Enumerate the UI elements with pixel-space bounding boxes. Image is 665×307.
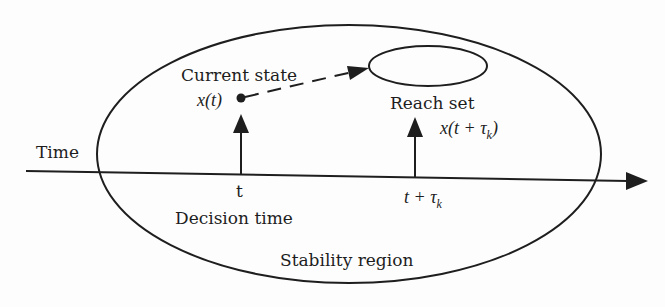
- reach-time-arrow: [407, 117, 423, 178]
- x-t-tau-label: x(t + τk): [439, 118, 498, 142]
- decision-time-label: Decision time: [175, 208, 293, 228]
- t-tau-tick-label: t + τk: [404, 187, 443, 211]
- diagram-canvas: Current state x(t) Reach set x(t + τk) T…: [0, 0, 665, 307]
- t-tau-prefix: t + τ: [404, 187, 437, 207]
- up-arrowhead-icon: [407, 117, 423, 137]
- decision-time-arrow: [233, 114, 249, 174]
- current-state-label: Current state: [181, 65, 297, 85]
- reach-set-ellipse: [369, 46, 487, 86]
- up-arrowhead-icon: [233, 114, 249, 133]
- x-t-tau-prefix: x(t + τ: [439, 118, 487, 139]
- reach-set-diagram: Current state x(t) Reach set x(t + τk) T…: [0, 0, 665, 307]
- stability-region-ellipse: [97, 25, 601, 283]
- x-t-label: x(t): [196, 90, 222, 111]
- time-axis-arrowhead-icon: [626, 172, 648, 190]
- reach-set-label: Reach set: [390, 93, 475, 113]
- current-state-point: [237, 94, 246, 103]
- time-axis: [26, 171, 648, 190]
- stability-region-label: Stability region: [280, 250, 413, 270]
- t-tau-subscript: k: [437, 197, 443, 211]
- time-axis-label: Time: [36, 142, 79, 162]
- x-t-tau-suffix: ): [491, 118, 498, 139]
- dashed-arrowhead-icon: [347, 66, 369, 80]
- t-tick-label: t: [236, 181, 243, 201]
